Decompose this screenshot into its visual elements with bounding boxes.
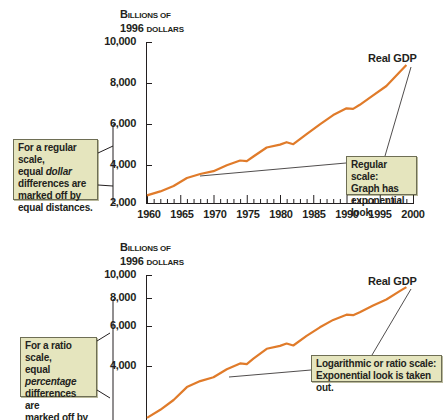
bottom-leaders (229, 289, 411, 377)
top-bracket (98, 124, 116, 204)
top-real-gdp-line (147, 65, 406, 195)
bottom-axes (146, 275, 152, 420)
top-x-ticks (148, 195, 414, 203)
chart-graphics (0, 0, 446, 420)
top-leaders (200, 67, 411, 176)
bottom-bracket (97, 298, 116, 420)
bottom-real-gdp-line (147, 287, 406, 418)
